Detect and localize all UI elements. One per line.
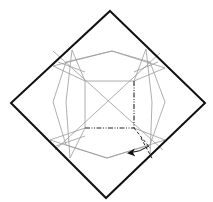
crease-ll-5 xyxy=(56,136,85,146)
paper-outline xyxy=(11,11,205,198)
crease-ll-2 xyxy=(66,102,70,158)
crease-ur-1 xyxy=(134,49,146,81)
crease-ll-3 xyxy=(50,140,107,158)
crease-ul-2 xyxy=(66,50,72,102)
mountain-folds xyxy=(85,81,134,128)
crease-lines xyxy=(50,49,165,158)
crease-ul-1 xyxy=(72,50,85,81)
crease-pattern-canvas xyxy=(0,0,213,202)
crease-ur-3 xyxy=(112,51,165,68)
crease-lr-1 xyxy=(150,102,152,158)
crease-ur-5 xyxy=(134,62,158,72)
origami-diagram xyxy=(0,0,213,202)
